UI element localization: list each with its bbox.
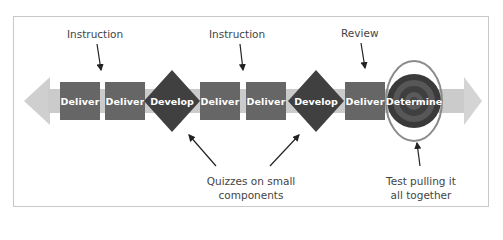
review-label: Review xyxy=(341,26,378,40)
quizzes-arrow-left-icon xyxy=(189,135,216,166)
test-label-line-1: Test pulling it xyxy=(376,174,466,188)
instruction-label-1: Instruction xyxy=(67,27,123,41)
instruction-1-arrow-icon xyxy=(97,44,101,70)
instruction-2-arrow-icon xyxy=(240,44,243,70)
quizzes-label: Quizzes on small components xyxy=(196,174,306,202)
test-label-line-2: all together xyxy=(376,188,466,202)
quizzes-label-line-1: Quizzes on small xyxy=(196,174,306,188)
review-arrow-icon xyxy=(361,43,365,68)
test-arrow-icon xyxy=(417,143,420,166)
instruction-label-2: Instruction xyxy=(209,27,265,41)
quizzes-label-line-2: components xyxy=(196,188,306,202)
test-label: Test pulling it all together xyxy=(376,174,466,202)
quizzes-arrow-right-icon xyxy=(270,135,299,166)
